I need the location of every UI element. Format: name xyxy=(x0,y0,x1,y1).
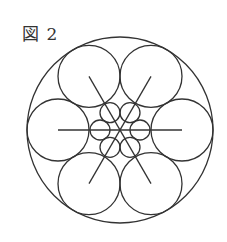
circle-pattern-diagram xyxy=(0,0,227,242)
